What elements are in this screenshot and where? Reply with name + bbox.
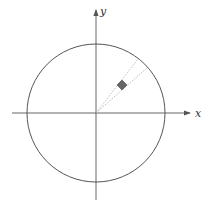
- x-axis-label: x: [195, 107, 202, 120]
- small-square: [117, 80, 127, 90]
- y-axis-label: y: [99, 5, 107, 18]
- diagram-canvas: x y: [0, 0, 212, 207]
- dotted-ray-lower: [96, 68, 147, 113]
- dotted-ray-upper: [96, 59, 138, 113]
